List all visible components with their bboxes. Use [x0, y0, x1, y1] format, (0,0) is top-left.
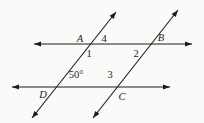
- point-label-A: A: [76, 33, 84, 44]
- angle-label-3: 3: [107, 69, 112, 80]
- top-parallel-line-arrowhead-start: [34, 41, 41, 46]
- point-label-B: B: [158, 32, 165, 43]
- right-transversal: [93, 10, 178, 118]
- bottom-parallel-line-arrowhead-end: [163, 84, 170, 89]
- angle-label-1: 1: [86, 48, 91, 59]
- angle-label-2: 2: [133, 48, 138, 59]
- top-parallel-line: [34, 41, 192, 46]
- point-label-C: C: [118, 91, 126, 102]
- bottom-parallel-line: [12, 84, 170, 89]
- left-transversal: [32, 12, 116, 118]
- bottom-parallel-line-arrowhead-start: [12, 84, 19, 89]
- geometry-diagram: A4B1250°3DC: [0, 0, 204, 123]
- diagram-canvas: A4B1250°3DC: [0, 0, 204, 123]
- point-label-D: D: [38, 89, 47, 100]
- angle-measure-50: 50°: [69, 69, 84, 80]
- top-parallel-line-arrowhead-end: [185, 41, 192, 46]
- angle-label-4: 4: [101, 33, 107, 44]
